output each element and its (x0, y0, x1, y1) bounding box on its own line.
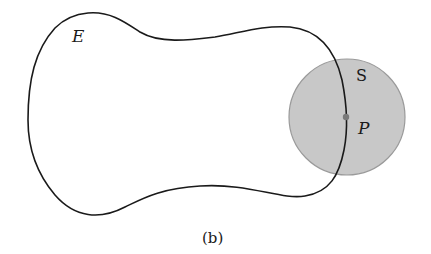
point-p (343, 114, 349, 120)
point-p-label: P (357, 118, 370, 138)
sphere-s-label: S (356, 66, 367, 85)
figure-caption: (b) (202, 229, 223, 247)
diagram-canvas: E S P (b) (0, 0, 431, 254)
region-e-label: E (71, 26, 85, 46)
